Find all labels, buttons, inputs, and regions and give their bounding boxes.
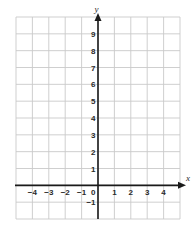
x-axis-arrow-icon: [178, 182, 186, 189]
x-tick-label: −3: [44, 188, 54, 197]
y-axis-label: y: [94, 4, 99, 14]
y-tick-labels: 987654321−1: [86, 30, 96, 207]
coordinate-plane: −4−3−2−101234 987654321−1 x y: [0, 0, 195, 230]
x-tick-label: 1: [112, 188, 117, 197]
x-tick-label: −2: [61, 188, 71, 197]
y-tick-label: 4: [91, 114, 96, 123]
x-tick-label: 3: [145, 188, 150, 197]
y-tick-label: 5: [91, 97, 96, 106]
y-tick-label: 9: [91, 30, 96, 39]
x-tick-labels: −4−3−2−101234: [28, 188, 167, 197]
x-tick-label: −1: [77, 188, 87, 197]
y-tick-label: 6: [91, 80, 96, 89]
x-tick-label: −4: [28, 188, 38, 197]
y-tick-label: −1: [86, 198, 96, 207]
y-tick-label: 2: [91, 148, 96, 157]
y-tick-label: 7: [91, 64, 96, 73]
y-tick-label: 8: [91, 47, 96, 56]
x-tick-label: 0: [91, 188, 96, 197]
axes: [15, 13, 186, 219]
x-tick-label: 4: [161, 188, 166, 197]
x-axis-label: x: [185, 173, 190, 183]
y-tick-label: 3: [91, 131, 96, 140]
x-tick-label: 2: [129, 188, 134, 197]
y-tick-label: 1: [91, 165, 96, 174]
